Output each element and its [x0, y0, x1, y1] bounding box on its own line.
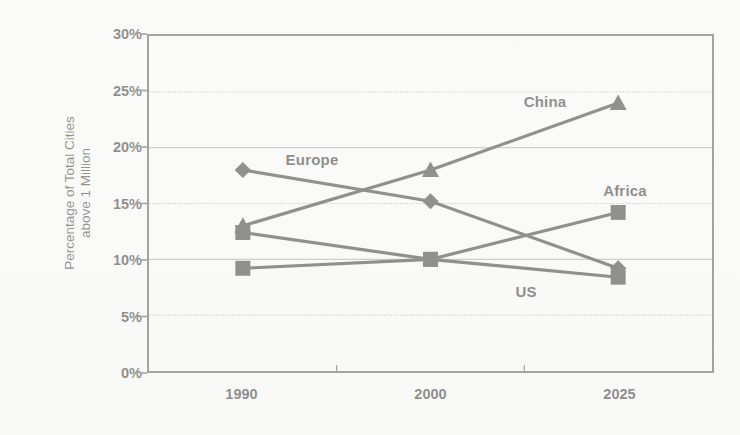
- x-tick-label: 2000: [414, 386, 446, 402]
- x-tick-label: 1990: [225, 386, 257, 402]
- series-label-us: US: [515, 283, 536, 300]
- axis-ticks: [0, 0, 740, 435]
- series-label-china: China: [524, 93, 567, 110]
- x-tick-label: 2025: [603, 386, 635, 402]
- series-label-africa: Africa: [603, 182, 647, 199]
- chart-screenshot: Percentage of Total Cities above 1 Milli…: [0, 0, 740, 435]
- series-label-europe: Europe: [286, 151, 339, 168]
